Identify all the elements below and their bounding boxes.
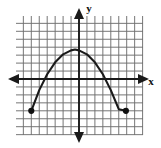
graph-figure: x y (0, 0, 161, 148)
x-axis-label: x (148, 75, 154, 87)
y-axis-label: y (86, 2, 92, 14)
coordinate-graph: x y (0, 0, 161, 148)
curve-endpoint-right (123, 108, 129, 114)
figure-background (0, 0, 161, 148)
curve-endpoint-left (28, 108, 34, 114)
